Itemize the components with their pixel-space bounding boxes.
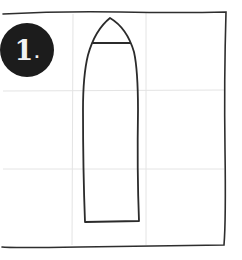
step-suffix: . (34, 45, 39, 61)
step-number: 1 (14, 37, 33, 64)
bullet-outline (83, 18, 139, 222)
step-badge: 1 . (0, 23, 54, 77)
